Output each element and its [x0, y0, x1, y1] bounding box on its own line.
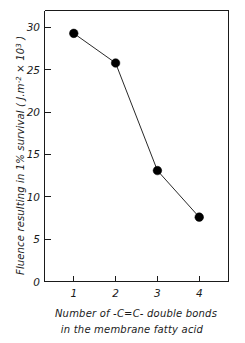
- y-axis-title-part3: ): [15, 36, 26, 43]
- data-point-4: [195, 213, 204, 222]
- y-axis-title-part2: × 10: [15, 48, 26, 76]
- x-axis-caption-line2: in the membrane fatty acid: [61, 324, 204, 335]
- x-axis-caption-line1: Number of -C=C- double bonds: [55, 308, 217, 319]
- chart-canvas: 30 25 20 15 10 5 0 1 2 3 4 Fluence resul…: [0, 0, 245, 343]
- y-tick-label-25: 25: [27, 64, 41, 76]
- y-tick-labels: 30 25 20 15 10 5 0: [27, 21, 41, 287]
- y-tick-label-20: 20: [27, 106, 41, 118]
- x-axis-ticks: [74, 276, 199, 282]
- data-line: [74, 33, 199, 217]
- data-point-2: [111, 59, 120, 68]
- data-series-fluence: [69, 29, 203, 221]
- y-tick-label-15: 15: [27, 148, 41, 160]
- x-axis-caption: Number of -C=C- double bonds in the memb…: [55, 308, 217, 335]
- y-tick-label-10: 10: [27, 191, 41, 203]
- y-tick-label-5: 5: [33, 233, 40, 245]
- x-tick-label-2: 2: [112, 287, 119, 299]
- chart-figure: 30 25 20 15 10 5 0 1 2 3 4 Fluence resul…: [0, 0, 245, 343]
- svg-text:Fluence resulting in 1% surviv: Fluence resulting in 1% survival ( J.m-2…: [15, 36, 27, 275]
- x-tick-labels: 1 2 3 4: [70, 287, 202, 299]
- y-axis-title: Fluence resulting in 1% survival ( J.m-2…: [15, 36, 27, 275]
- y-axis-ticks: [45, 27, 51, 239]
- data-point-1: [69, 29, 78, 38]
- plot-frame: [45, 11, 229, 282]
- y-tick-label-30: 30: [27, 21, 41, 33]
- x-tick-label-3: 3: [154, 287, 161, 299]
- x-tick-label-4: 4: [196, 287, 203, 299]
- y-axis-title-part1: Fluence resulting in 1% survival ( J.m: [15, 83, 26, 275]
- data-point-3: [153, 166, 162, 175]
- x-tick-label-1: 1: [70, 287, 77, 299]
- y-tick-label-0: 0: [33, 276, 40, 288]
